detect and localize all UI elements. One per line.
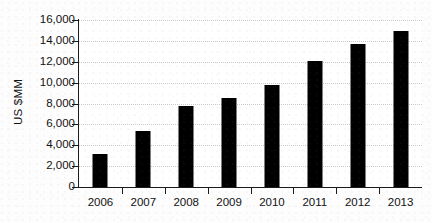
y-axis-tick-mark — [72, 187, 78, 188]
y-axis-tick-label: 0 — [20, 181, 75, 193]
x-axis-tick-mark — [122, 187, 123, 194]
bar — [307, 61, 322, 187]
x-axis-tick-mark — [251, 187, 252, 194]
x-axis-tick-label: 2007 — [119, 196, 167, 208]
x-axis-tick-label: 2013 — [377, 196, 425, 208]
y-axis-tick-label: 12,000 — [20, 56, 75, 68]
bar — [264, 85, 279, 187]
y-axis-tick-mark — [72, 41, 78, 42]
x-axis-tick-mark — [336, 187, 337, 194]
bar — [179, 106, 194, 187]
bar — [222, 98, 237, 187]
x-axis-tick-mark — [379, 187, 380, 194]
x-axis-tick-label: 2009 — [205, 196, 253, 208]
bar — [393, 31, 408, 187]
y-axis-tick-label: 2,000 — [20, 160, 75, 172]
x-axis-tick-mark — [208, 187, 209, 194]
y-axis-tick-mark — [72, 83, 78, 84]
y-axis-tick-mark — [72, 20, 78, 21]
bar-chart: US $MM 02,0004,0006,0008,00010,00012,000… — [0, 0, 432, 223]
y-axis-tick-label: 16,000 — [20, 14, 75, 26]
y-axis-tick-mark — [72, 62, 78, 63]
y-axis-tick-label: 4,000 — [20, 140, 75, 152]
x-axis-tick-mark — [293, 187, 294, 194]
y-axis-tick-label: 6,000 — [20, 119, 75, 131]
y-axis-tick-label: 10,000 — [20, 77, 75, 89]
x-axis-tick-label: 2008 — [162, 196, 210, 208]
y-axis-tick-label: 8,000 — [20, 98, 75, 110]
x-axis-tick-mark — [165, 187, 166, 194]
x-axis-tick-label: 2011 — [291, 196, 339, 208]
y-axis-tick-mark — [72, 104, 78, 105]
x-axis-tick-label: 2006 — [76, 196, 124, 208]
y-axis-tick-mark — [72, 166, 78, 167]
bar — [93, 154, 108, 187]
x-axis-tick-label: 2012 — [334, 196, 382, 208]
y-axis-tick-labels: 02,0004,0006,0008,00010,00012,00014,0001… — [20, 0, 75, 223]
x-axis-tick-label: 2010 — [248, 196, 296, 208]
x-axis-tick-labels: 20062007200820092010201120122013 — [79, 196, 422, 218]
bar — [350, 44, 365, 187]
bar — [136, 131, 151, 187]
plot-area — [79, 20, 422, 187]
y-axis-tick-mark — [72, 145, 78, 146]
y-axis-tick-mark — [72, 124, 78, 125]
gridline — [79, 187, 422, 188]
y-axis-tick-label: 14,000 — [20, 35, 75, 47]
bars-layer — [79, 20, 422, 187]
